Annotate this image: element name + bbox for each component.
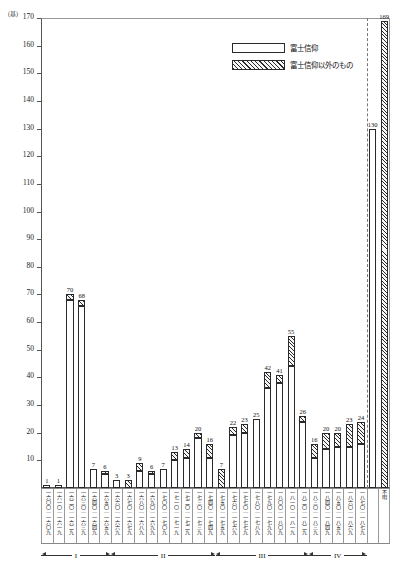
bar-slot[interactable]: 25 [253,18,260,488]
bar-slot[interactable]: 16 [206,18,213,488]
bar-segment-other[interactable] [206,444,213,458]
bar-slot[interactable]: 1 [55,18,62,488]
bar-segment-fuji-shinko[interactable] [194,438,201,488]
bar[interactable] [311,444,318,488]
bar[interactable] [357,422,364,488]
bar-segment-other[interactable] [357,422,364,444]
bar-segment-fuji-shinko[interactable] [171,460,178,488]
bar-segment-fuji-shinko[interactable] [311,458,318,488]
bar-segment-fuji-shinko[interactable] [253,419,260,488]
bar-slot[interactable]: 42 [264,18,271,488]
bar[interactable] [229,427,236,488]
bar[interactable] [288,336,295,488]
bar-segment-fuji-shinko[interactable] [160,469,167,488]
bar-slot[interactable]: 24 [357,18,364,488]
bar[interactable] [183,449,190,488]
bar-slot[interactable]: 23 [241,18,248,488]
bar-segment-fuji-shinko[interactable] [334,447,341,488]
bar-segment-fuji-shinko[interactable] [357,444,364,488]
bar[interactable] [346,424,353,488]
bar-slot[interactable]: 13 [171,18,178,488]
bar-segment-other[interactable] [218,469,225,488]
bar-slot[interactable]: 55 [288,18,295,488]
bar-slot[interactable]: 3 [125,18,132,488]
bar[interactable] [160,469,167,488]
bar-segment-other[interactable] [276,375,283,383]
bar-segment-other[interactable] [229,427,236,435]
bar[interactable] [125,480,132,488]
bar-slot[interactable]: 6 [148,18,155,488]
bar[interactable] [334,433,341,488]
bar-slot[interactable]: 20 [334,18,341,488]
bar-slot[interactable]: 23 [346,18,353,488]
bar-segment-fuji-shinko[interactable] [229,435,236,488]
bar-slot[interactable]: 7 [90,18,97,488]
bar-segment-fuji-shinko[interactable] [264,388,271,488]
bar[interactable] [113,480,120,488]
bar[interactable] [299,416,306,488]
bar-slot[interactable]: 3 [113,18,120,488]
bar-segment-fuji-shinko[interactable] [148,474,155,488]
bar-segment-fuji-shinko[interactable] [346,447,353,488]
bar-slot[interactable]: 26 [299,18,306,488]
bar[interactable] [148,471,155,488]
bar-segment-other[interactable] [241,424,248,432]
bar[interactable] [194,433,201,488]
bar-slot[interactable]: 14 [183,18,190,488]
bar-segment-other[interactable] [288,336,295,366]
bar-segment-other[interactable] [322,433,329,450]
bar-segment-fuji-shinko[interactable] [241,433,248,488]
bar[interactable] [276,375,283,488]
bar[interactable] [253,419,260,488]
bar-slot[interactable]: 20 [194,18,201,488]
bar-slot[interactable]: 1 [43,18,50,488]
bar-slot[interactable]: 70 [66,18,73,488]
bar[interactable] [218,469,225,488]
bar-segment-other[interactable] [311,444,318,458]
bar-slot[interactable]: 41 [276,18,283,488]
bar-segment-other[interactable] [125,480,132,488]
bar-segment-fuji-shinko[interactable] [101,474,108,488]
bar-slot[interactable]: 169 [381,18,388,488]
bar[interactable] [90,469,97,488]
bar-segment-fuji-shinko[interactable] [78,306,85,488]
bar[interactable] [241,424,248,488]
bar-segment-other[interactable] [381,21,388,488]
bar-segment-other[interactable] [346,424,353,446]
bar-slot[interactable]: 16 [311,18,318,488]
bar-segment-fuji-shinko[interactable] [90,469,97,488]
bar-segment-other[interactable] [334,433,341,447]
bar[interactable] [369,129,376,488]
bar[interactable] [206,444,213,488]
bar-segment-other[interactable] [264,372,271,389]
bar[interactable] [78,300,85,488]
bar-slot[interactable]: 9 [136,18,143,488]
bar-segment-fuji-shinko[interactable] [276,383,283,488]
bar-segment-other[interactable] [171,452,178,460]
bar-slot[interactable]: 7 [160,18,167,488]
bar-segment-fuji-shinko[interactable] [206,458,213,488]
bar-segment-fuji-shinko[interactable] [322,449,329,488]
bar[interactable] [381,21,388,488]
bar-slot[interactable]: 6 [101,18,108,488]
bar-segment-fuji-shinko[interactable] [369,129,376,488]
bar-segment-other[interactable] [183,449,190,457]
bar-slot[interactable]: 130 [369,18,376,488]
bar-segment-other[interactable] [136,463,143,471]
bar-segment-fuji-shinko[interactable] [136,471,143,488]
bar[interactable] [264,372,271,488]
bar-segment-fuji-shinko[interactable] [299,422,306,488]
bar-slot[interactable]: 68 [78,18,85,488]
bar-segment-fuji-shinko[interactable] [183,458,190,488]
bar[interactable] [322,433,329,488]
bar[interactable] [171,452,178,488]
bar-segment-fuji-shinko[interactable] [288,366,295,488]
bar[interactable] [136,463,143,488]
bar[interactable] [66,294,73,488]
bar-segment-fuji-shinko[interactable] [113,480,120,488]
bar-slot[interactable]: 7 [218,18,225,488]
bar[interactable] [101,471,108,488]
bar-slot[interactable]: 22 [229,18,236,488]
bar-slot[interactable]: 20 [322,18,329,488]
bar-segment-fuji-shinko[interactable] [66,300,73,488]
